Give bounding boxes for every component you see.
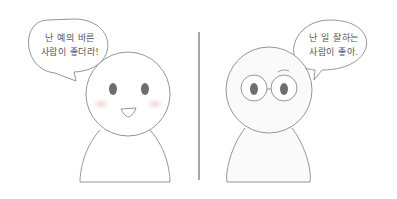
right-speech-text: 난 일 잘하는 사람이 좋아. (294, 31, 374, 59)
left-eye (109, 83, 117, 95)
left-speech-text: 난 예의 바른 사람이 좋더라! (30, 31, 110, 59)
left-character (80, 52, 170, 182)
left-speech-line1: 난 예의 바른 (30, 31, 110, 45)
right-eye (141, 83, 149, 95)
left-speech-line2: 사람이 좋더라! (30, 45, 110, 59)
right-speech-line2: 사람이 좋아. (294, 45, 374, 59)
right-eye (280, 83, 288, 95)
right-blush (146, 98, 164, 110)
comic-illustration (0, 0, 397, 199)
right-character (226, 47, 312, 182)
left-blush (92, 98, 110, 110)
right-speech-line1: 난 일 잘하는 (294, 31, 374, 45)
left-eye (250, 83, 258, 95)
